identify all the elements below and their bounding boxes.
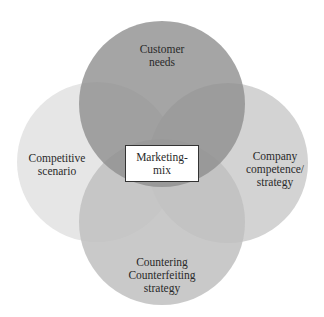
label-countering-counterfeiting: Countering Counterfeiting strategy xyxy=(122,256,202,295)
label-company-competence: Company competence/ strategy xyxy=(240,150,310,189)
marketing-mix-box: Marketing- mix xyxy=(125,145,199,182)
label-customer-needs: Customer needs xyxy=(122,43,202,69)
label-competitive-scenario: Competitive scenario xyxy=(22,152,92,178)
venn-diagram: Customer needs Competitive scenario Comp… xyxy=(0,0,324,317)
